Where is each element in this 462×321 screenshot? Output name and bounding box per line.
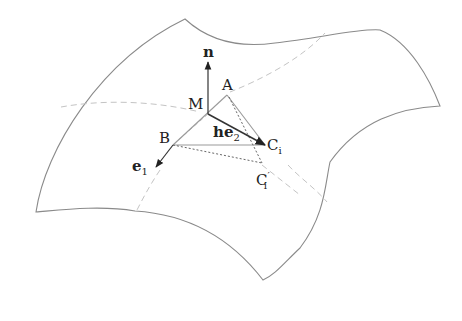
edge-A-Cpi [229,97,262,163]
dashed-curve-bottom-left [136,170,160,212]
label-A: A [221,76,233,94]
vector-e1 [156,145,173,167]
dashed-curve-bottom-right [288,165,327,202]
label-M: M [188,95,203,113]
label-Cpi: C′i [256,170,270,191]
label-e1: e1 [132,157,148,177]
label-Ci: Ci [267,136,282,156]
label-n: n [203,43,214,61]
surface-diagram: n M A B he2 Ci C′i e1 [0,0,462,321]
edge-B-Cpi [173,145,262,163]
label-B: B [159,129,170,147]
dashed-curve-top-right [230,33,325,92]
label-he2: he2 [213,123,240,143]
surface-outline [36,19,440,280]
